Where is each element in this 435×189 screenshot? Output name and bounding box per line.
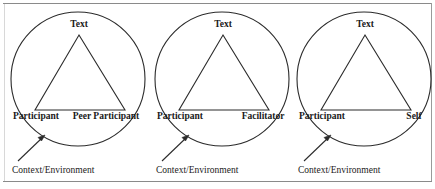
base-right-label: Peer Participant <box>73 112 140 122</box>
context-arrow <box>18 135 45 161</box>
figure-canvas: Text Participant Peer Participant Contex… <box>0 0 435 189</box>
base-left-label: Participant <box>299 112 345 122</box>
base-right-label: Facilitator <box>242 112 285 122</box>
diagram-unit-2: Text Participant Facilitator Context/Env… <box>146 0 291 189</box>
context-circle <box>11 12 145 146</box>
context-circle <box>155 12 289 146</box>
context-arrow <box>162 135 189 161</box>
apex-label: Text <box>356 20 374 30</box>
base-left-label: Participant <box>157 112 203 122</box>
relationship-triangle <box>179 35 269 110</box>
base-right-label: Self <box>406 112 421 122</box>
apex-label: Text <box>70 20 88 30</box>
context-label: Context/Environment <box>156 166 238 176</box>
context-arrow <box>304 135 331 161</box>
diagram-unit-1: Text Participant Peer Participant Contex… <box>2 0 147 189</box>
diagram-unit-3: Text Participant Self Context/Environmen… <box>288 0 433 189</box>
base-left-label: Participant <box>13 112 59 122</box>
relationship-triangle <box>35 35 125 110</box>
context-label: Context/Environment <box>12 166 94 176</box>
apex-label: Text <box>214 20 232 30</box>
relationship-triangle <box>321 35 411 110</box>
context-circle <box>297 12 431 146</box>
context-label: Context/Environment <box>298 166 380 176</box>
